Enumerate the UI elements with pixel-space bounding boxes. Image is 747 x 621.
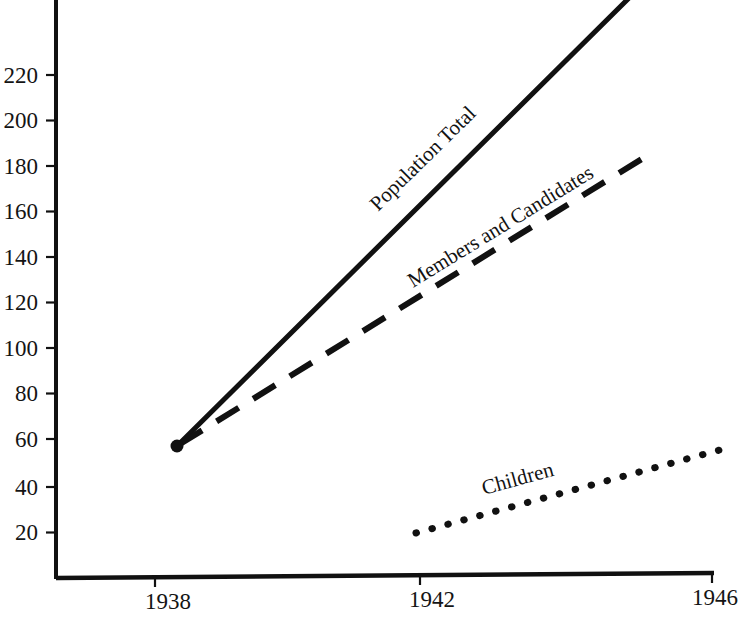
- y-tick-label-120: 120: [4, 290, 39, 315]
- y-tick-label-140: 140: [4, 245, 39, 270]
- y-tick-label-180: 180: [4, 154, 39, 179]
- origin-marker-dot: [171, 440, 184, 453]
- y-tick-label-160: 160: [4, 199, 39, 224]
- y-tick-label-20: 20: [15, 520, 38, 545]
- x-tick-label-1946: 1946: [692, 585, 738, 610]
- series-label-members-and-candidates: Members and Candidates: [403, 160, 598, 292]
- x-tick-label-1942: 1942: [409, 587, 455, 612]
- line-chart: 220 200 180 160 140 120 100 80 60 40 20 …: [0, 0, 747, 621]
- series-line-children: [416, 448, 727, 533]
- chart-container: 220 200 180 160 140 120 100 80 60 40 20 …: [0, 0, 747, 621]
- y-tick-label-40: 40: [15, 475, 38, 500]
- y-tick-label-80: 80: [15, 381, 38, 406]
- y-tick-label-200: 200: [4, 108, 39, 133]
- x-tick-label-1938: 1938: [145, 589, 191, 614]
- y-tick-label-220: 220: [4, 63, 39, 88]
- series-line-population-total: [177, 0, 629, 446]
- series-label-children: Children: [479, 457, 557, 500]
- y-tick-label-100: 100: [4, 336, 39, 361]
- series-line-members-and-candidates: [180, 157, 645, 444]
- series-label-population-total: Population Total: [365, 101, 481, 215]
- y-tick-label-60: 60: [15, 427, 38, 452]
